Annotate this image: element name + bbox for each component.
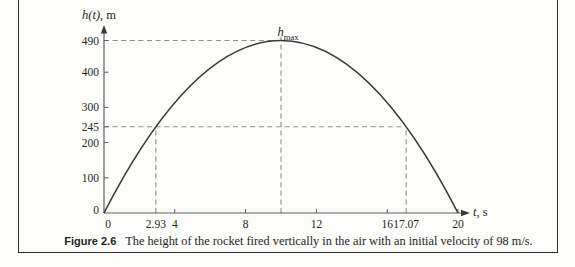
- y-tick-label: 100: [82, 172, 100, 184]
- x-tick-label: 4: [172, 218, 178, 230]
- x-special-tick-label: 17.07: [393, 218, 419, 230]
- y-special-tick-label: 245: [82, 121, 100, 133]
- page: 0481216202.9317.071002003004000245490 h(…: [0, 0, 575, 267]
- x-special-tick-label: 2.93: [146, 218, 166, 230]
- y-axis-label-unit: , m: [100, 8, 116, 22]
- y-special-tick-label: 490: [82, 35, 100, 47]
- y-tick-label: 200: [82, 137, 100, 149]
- y-tick-label-zero: 0: [93, 204, 99, 216]
- peak-annotation-hmax: hmax: [262, 25, 314, 42]
- x-axis-label-unit: , s: [476, 205, 487, 219]
- x-tick-label: 12: [311, 218, 323, 230]
- figure-caption: Figure 2.6The height of the rocket fired…: [46, 231, 551, 249]
- x-axis-arrowhead-icon: [461, 210, 470, 216]
- figure-caption-number: Figure 2.6: [64, 235, 116, 247]
- figure-caption-text: The height of the rocket fired verticall…: [125, 234, 532, 248]
- y-axis-label: h(t), m: [82, 8, 116, 23]
- y-axis-label-math: h(t): [82, 8, 100, 22]
- peak-label-subscript: max: [284, 32, 299, 42]
- y-axis-arrowhead-icon: [101, 25, 107, 34]
- x-tick-label: 8: [243, 218, 249, 230]
- y-tick-label: 300: [82, 101, 100, 113]
- x-axis-label: t, s: [473, 205, 488, 220]
- x-tick-label: 16: [381, 218, 393, 230]
- y-tick-label: 400: [82, 66, 100, 78]
- x-tick-label: 0: [105, 218, 111, 230]
- x-tick-label: 20: [452, 218, 464, 230]
